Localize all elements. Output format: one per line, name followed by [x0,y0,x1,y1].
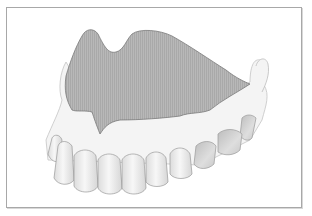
denture-illustration [0,0,312,216]
